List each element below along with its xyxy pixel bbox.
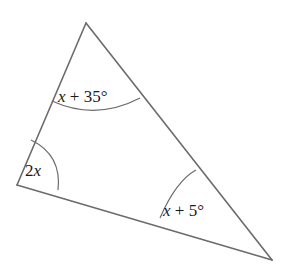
angle-label-apex: x + 35° bbox=[57, 87, 107, 106]
angle-label-right: x + 5° bbox=[162, 201, 204, 220]
angle-label-variable: x bbox=[33, 161, 42, 180]
angle-label-constant: 35° bbox=[84, 87, 108, 106]
angle-label-coefficient: 2 bbox=[25, 161, 34, 180]
angle-label-operator: + bbox=[171, 201, 189, 220]
angle-label-operator: + bbox=[66, 87, 84, 106]
angle-label-left: 2x bbox=[25, 161, 42, 180]
angle-label-constant: 5° bbox=[189, 201, 204, 220]
triangle-figure: x + 35° 2x x + 5° bbox=[0, 0, 289, 273]
geometry-diagram: x + 35° 2x x + 5° bbox=[0, 0, 289, 273]
diagram-background bbox=[0, 0, 289, 273]
